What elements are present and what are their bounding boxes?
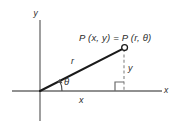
x-axis-label: x (164, 86, 168, 95)
radius-label: r (71, 57, 74, 66)
point-p-marker (122, 45, 128, 51)
angle-theta-label: θ (64, 77, 69, 87)
leg-y-label: y (128, 64, 133, 73)
polar-coordinates-figure: P (x, y) = P (r, θ) y x r x y θ (0, 0, 173, 129)
radius-ray-line (40, 49, 123, 91)
point-p-label: P (x, y) = P (r, θ) (79, 33, 151, 43)
figure-canvas (0, 0, 173, 129)
right-angle-marker (115, 82, 124, 91)
leg-x-label: x (79, 96, 84, 105)
y-axis-label: y (34, 9, 38, 18)
